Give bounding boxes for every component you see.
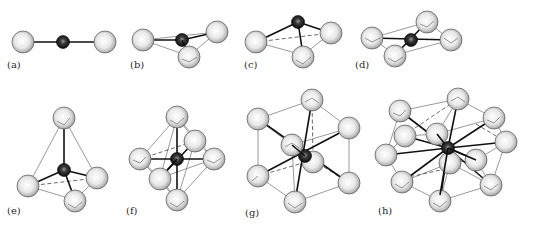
ligand-atom <box>495 131 517 153</box>
central-atom <box>58 164 71 177</box>
ligand-atom <box>440 29 462 51</box>
panel-label-h: (h) <box>378 205 392 216</box>
coordination-geometry-figure: (a) (b) (c) <box>0 0 535 228</box>
ligand-atom <box>338 117 360 139</box>
panel-label-b: (b) <box>130 59 144 70</box>
ligand-atom <box>166 106 188 128</box>
ligand-atom <box>389 100 411 122</box>
ligand-atom <box>245 31 267 53</box>
panel-f-octahedral: (f) <box>126 106 225 216</box>
panel-label-c: (c) <box>244 59 258 70</box>
ligand-atom <box>247 108 269 130</box>
ligand-atom <box>53 107 75 129</box>
ligand-atom <box>375 144 397 166</box>
ligand-atom <box>166 189 188 211</box>
ligand-atom <box>447 88 469 110</box>
ligand-atom <box>12 31 34 53</box>
panel-label-d: (d) <box>355 59 369 70</box>
ligand-atom <box>206 21 228 43</box>
ligand-atom <box>94 31 116 53</box>
panel-c-trigonal-pyramidal: (c) <box>244 16 342 71</box>
ligand-atom <box>64 190 86 212</box>
ligand-atom <box>439 152 461 174</box>
central-atom <box>405 34 418 47</box>
ligand-atom <box>184 130 206 152</box>
ligand-atom <box>384 45 406 67</box>
ligand-atom <box>338 172 360 194</box>
ligand-atom <box>284 191 306 213</box>
panel-label-e: (e) <box>7 205 21 216</box>
panel-e-tetrahedral: (e) <box>7 107 108 216</box>
ligand-atom <box>416 11 438 33</box>
ligand-atom <box>391 171 413 193</box>
panel-g-cubic: (g) <box>245 89 360 218</box>
panel-label-f: (f) <box>126 205 138 216</box>
ligand-atom <box>203 148 225 170</box>
panel-label-a: (a) <box>7 59 21 70</box>
panel-h-cuboctahedral: (h) <box>375 88 517 216</box>
panel-d-square-planar: (d) <box>355 11 462 70</box>
central-atom <box>292 16 305 29</box>
ligand-atom <box>320 22 342 44</box>
ligand-atom <box>17 175 39 197</box>
ligand-atom <box>129 148 151 170</box>
ligand-atom <box>301 89 323 111</box>
ligand-atom <box>132 29 154 51</box>
panel-label-g: (g) <box>245 207 259 218</box>
ligand-atom <box>394 125 416 147</box>
panel-a-linear: (a) <box>7 31 116 70</box>
ligand-atom <box>86 167 108 189</box>
central-atom <box>57 36 70 49</box>
ligand-atom <box>483 107 505 129</box>
ligand-atom <box>480 174 502 196</box>
ligand-atom <box>149 168 171 190</box>
panel-b-trigonal-planar: (b) <box>130 21 228 70</box>
